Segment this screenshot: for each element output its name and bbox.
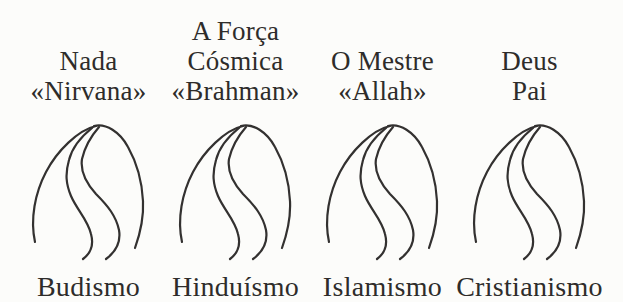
column-islamismo: O Mestre «Allah» Islamismo — [309, 15, 456, 302]
concept-line-2: Nada — [15, 46, 162, 76]
mountain-winding-path-icon — [175, 117, 297, 264]
divine-concept-label: A Força Cósmica «Brahman» — [162, 15, 309, 106]
religions-mountain-diagram: Nada «Nirvana» Budismo A Força Cósmica «… — [0, 0, 623, 302]
column-hinduismo: A Força Cósmica «Brahman» Hinduísmo — [162, 15, 309, 302]
concept-line-1: A Força — [162, 16, 309, 46]
concept-line-3: Pai — [456, 76, 603, 106]
column-cristianismo: Deus Pai Cristianismo — [456, 15, 603, 302]
religion-label: Hinduísmo — [172, 272, 299, 302]
concept-line-2: Cósmica — [162, 46, 309, 76]
concept-line-3: «Allah» — [309, 76, 456, 106]
religion-label: Islamismo — [323, 272, 442, 302]
concept-line-3: «Nirvana» — [15, 76, 162, 106]
religion-label: Cristianismo — [456, 272, 603, 302]
concept-line-2: O Mestre — [309, 46, 456, 76]
mountain-winding-path-icon — [469, 117, 591, 264]
column-budismo: Nada «Nirvana» Budismo — [15, 15, 162, 302]
concept-line-2: Deus — [456, 46, 603, 76]
divine-concept-label: O Mestre «Allah» — [309, 15, 456, 106]
divine-concept-label: Deus Pai — [456, 15, 603, 106]
religion-label: Budismo — [37, 272, 140, 302]
mountain-winding-path-icon — [28, 117, 150, 264]
concept-line-3: «Brahman» — [162, 76, 309, 106]
mountain-winding-path-icon — [322, 117, 444, 264]
divine-concept-label: Nada «Nirvana» — [15, 15, 162, 106]
